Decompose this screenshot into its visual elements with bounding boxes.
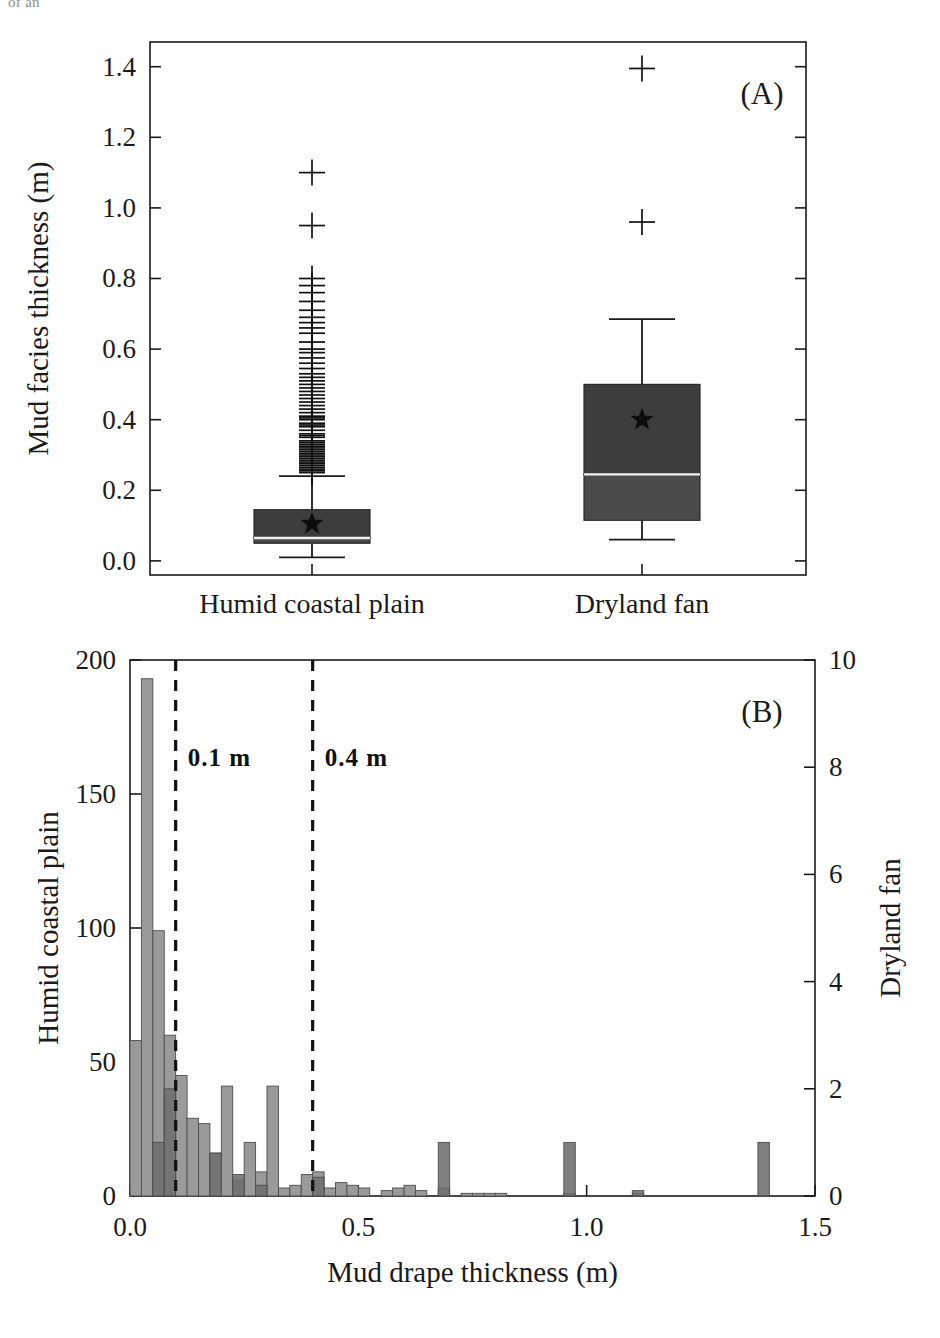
histogram-bar	[267, 1086, 278, 1196]
histogram-bar	[187, 1118, 198, 1196]
histogram-bar	[461, 1193, 472, 1196]
histogram-bar	[164, 1089, 175, 1196]
box-upper-quartile	[584, 384, 700, 474]
panel-a-boxplot: 0.00.20.40.60.81.01.21.4Mud facies thick…	[0, 0, 940, 620]
panel-a-ytick-label: 1.0	[102, 193, 136, 223]
histogram-bar	[347, 1185, 358, 1196]
panel-b-histogram: 05010015020002468100.00.51.01.50.1 m0.4 …	[0, 618, 940, 1338]
histogram-bar	[290, 1185, 301, 1196]
panel-b-ytick-label-right: 2	[829, 1074, 843, 1104]
histogram-bar	[381, 1191, 392, 1196]
panel-a-ytick-label: 0.4	[102, 405, 136, 435]
histogram-bar	[495, 1193, 506, 1196]
threshold-label-0: 0.1 m	[188, 744, 251, 771]
histogram-bar	[313, 1177, 324, 1196]
histogram-bar	[130, 1041, 141, 1196]
panel-a-label: (A)	[740, 76, 783, 111]
panel-a-ytick-label: 0.8	[102, 263, 136, 293]
panel-a-ytick-label: 1.2	[102, 122, 136, 152]
panel-a-frame	[150, 42, 806, 575]
panel-b-xtick-label: 1.5	[798, 1212, 832, 1242]
panel-b-xlabel: Mud drape thickness (m)	[327, 1256, 618, 1289]
panel-a-category-label-0: Humid coastal plain	[199, 588, 425, 619]
panel-b-ytick-label-left: 200	[76, 645, 117, 675]
histogram-bar	[358, 1188, 369, 1196]
histogram-bar	[221, 1086, 232, 1196]
panel-a-ylabel: Mud facies thickness (m)	[22, 162, 55, 456]
histogram-bar	[336, 1183, 347, 1196]
panel-b-ytick-label-left: 50	[89, 1047, 116, 1077]
panel-b-ytick-label-left: 0	[103, 1181, 117, 1211]
panel-b-ylabel-right: Dryland fan	[874, 858, 906, 998]
histogram-bar	[141, 679, 152, 1196]
histogram-bar	[210, 1153, 221, 1196]
histogram-bar	[256, 1185, 267, 1196]
panel-b-xtick-label: 1.0	[570, 1212, 604, 1242]
histogram-bar	[278, 1188, 289, 1196]
panel-b-ytick-label-left: 100	[76, 913, 117, 943]
histogram-bar	[301, 1175, 312, 1196]
panel-b-ytick-label-right: 0	[829, 1181, 843, 1211]
panel-b-ylabel-left: Humid coastal plain	[32, 811, 64, 1045]
panel-b-ytick-label-left: 150	[76, 779, 117, 809]
histogram-bar	[233, 1175, 244, 1196]
histogram-bar	[438, 1142, 449, 1196]
histogram-bar	[244, 1142, 255, 1196]
histogram-bar	[632, 1191, 643, 1196]
histogram-bar	[484, 1193, 495, 1196]
panel-b-label: (B)	[741, 694, 782, 729]
panel-a-ytick-label: 0.6	[102, 334, 136, 364]
panel-b-xtick-label: 0.5	[341, 1212, 375, 1242]
histogram-bar	[393, 1188, 404, 1196]
histogram-bar	[176, 1075, 187, 1196]
panel-a-category-label-1: Dryland fan	[575, 588, 710, 619]
panel-b-xtick-label: 0.0	[113, 1212, 147, 1242]
histogram-bar	[404, 1185, 415, 1196]
box-lower-quartile	[584, 474, 700, 520]
histogram-bar	[415, 1191, 426, 1196]
panel-b-ytick-label-right: 8	[829, 752, 843, 782]
figure-container: of an 0.00.20.40.60.81.01.21.4Mud facies…	[0, 0, 940, 1338]
histogram-bar	[564, 1142, 575, 1196]
histogram-bar	[153, 1142, 164, 1196]
panel-b-ytick-label-right: 6	[829, 859, 843, 889]
panel-b-ytick-label-right: 4	[829, 967, 843, 997]
boxplot-dryland-fan	[584, 55, 700, 539]
panel-b-ytick-label-right: 10	[829, 645, 856, 675]
histogram-bar	[199, 1124, 210, 1196]
threshold-label-1: 0.4 m	[325, 744, 388, 771]
histogram-bar	[324, 1188, 335, 1196]
panel-a-ytick-label: 0.0	[102, 546, 136, 576]
panel-a-ytick-label: 0.2	[102, 475, 136, 505]
histogram-bar	[473, 1193, 484, 1196]
histogram-bar	[758, 1142, 769, 1196]
boxplot-humid-coastal-plain	[254, 160, 370, 558]
panel-a-ytick-label: 1.4	[102, 52, 136, 82]
